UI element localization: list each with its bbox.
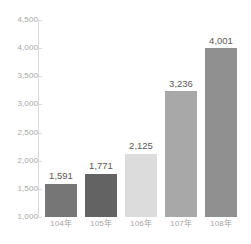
plot-area: 1,5911,7712,1253,2364,001 [39,20,251,217]
bar-slot: 2,125 [121,20,161,217]
bar-value-label: 1,591 [41,171,81,181]
x-axis-category-label: 108年 [201,220,241,228]
y-axis-tick-label: 2,500 [4,129,38,137]
y-axis-tick-label: 3,000 [4,100,38,108]
y-axis-tick-label: 4,000 [4,44,38,52]
bar-value-label: 2,125 [121,141,161,151]
x-axis-category-label: 106年 [121,220,161,228]
x-axis-category-label: 104年 [41,220,81,228]
y-axis-tick-label: 1,000 [4,213,38,221]
y-axis-tick-label: 4,500 [4,16,38,24]
bar-chart: 1,0001,5002,0002,5003,0003,5004,0004,500… [0,0,251,244]
bar-value-label: 1,771 [81,161,121,171]
bar-slot: 3,236 [161,20,201,217]
bar[interactable] [125,154,157,217]
bar-value-label: 4,001 [201,36,241,46]
y-axis-tick-label: 2,000 [4,157,38,165]
bar-slot: 4,001 [201,20,241,217]
x-axis-category-label: 105年 [81,220,121,228]
y-axis-tick-label: 3,500 [4,72,38,80]
bar-slot: 1,591 [41,20,81,217]
bar-slot: 1,771 [81,20,121,217]
y-axis-tick [38,217,42,218]
bar-value-label: 3,236 [161,79,201,89]
x-axis-category-label: 107年 [161,220,201,228]
bar[interactable] [85,174,117,217]
bar[interactable] [45,184,77,217]
y-axis-tick-label: 1,500 [4,185,38,193]
bar[interactable] [205,48,237,217]
bar[interactable] [165,91,197,217]
